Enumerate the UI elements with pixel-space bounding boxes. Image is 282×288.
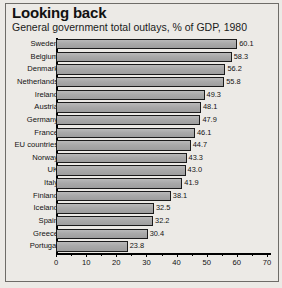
plot-area: Sweden60.1Belgium58.3Denmark56.2Netherla… [0,38,282,288]
bar [56,90,205,100]
bar [56,165,186,175]
x-tick-label: 0 [44,258,68,267]
bar [56,229,148,239]
bar-value-label: 48.1 [203,101,217,114]
bar-row: Finland38.1 [0,190,282,203]
x-tick-minor [252,253,253,256]
x-tick-major [116,253,117,257]
category-label: Greece [33,228,58,241]
category-label: Sweden [31,38,58,51]
bar-row: Denmark56.2 [0,63,282,76]
bar-value-label: 47.9 [202,114,216,127]
category-label: France [34,127,58,140]
chart-title: Looking back [12,4,106,21]
category-label: Netherlands [17,76,58,89]
bar-row: UK43.0 [0,164,282,177]
bar-row: Sweden60.1 [0,38,282,51]
x-tick-label: 40 [165,258,189,267]
bar-row: Portugal23.8 [0,240,282,253]
x-tick-major [177,253,178,257]
bar-value-label: 32.5 [156,202,170,215]
category-label: Belgium [31,51,58,64]
x-tick-label: 60 [225,258,249,267]
bar-row: EU countries44.7 [0,139,282,152]
bar [56,102,201,112]
bar [56,153,187,163]
x-tick-minor [71,253,72,256]
bar [56,128,195,138]
x-tick-label: 30 [134,258,158,267]
x-tick-major [86,253,87,257]
bar-row: Italy41.9 [0,177,282,190]
x-tick-major [146,253,147,257]
bar [56,178,182,188]
bar [56,115,200,125]
bar [56,52,232,62]
x-tick-major [56,253,57,257]
x-tick-label: 10 [74,258,98,267]
bar [56,203,154,213]
bar-value-label: 46.1 [197,127,211,140]
bar-value-label: 32.2 [155,215,169,228]
bar-value-label: 58.3 [234,51,248,64]
bar-value-label: 55.8 [226,76,240,89]
bar-value-label: 38.1 [173,190,187,203]
bar [56,39,237,49]
bar-row: France46.1 [0,127,282,140]
bar [56,241,128,251]
bar-value-label: 49.3 [207,89,221,102]
bar-row: Norway43.3 [0,152,282,165]
chart-subtitle: General government total outlays, % of G… [12,21,247,33]
bar [56,216,153,226]
bar-value-label: 60.1 [239,38,253,51]
bar [56,191,171,201]
category-label: Portugal [30,240,58,253]
bar-value-label: 43.3 [189,152,203,165]
x-tick-minor [101,253,102,256]
bar-row: Austria48.1 [0,101,282,114]
category-label: Denmark [27,63,58,76]
bar [56,77,224,87]
category-label: Norway [32,152,58,165]
x-tick-minor [162,253,163,256]
bar-row: Greece30.4 [0,228,282,241]
bar-value-label: 43.0 [188,164,202,177]
bar-row: Belgium58.3 [0,51,282,64]
bar-value-label: 56.2 [227,63,241,76]
category-label: Iceland [34,202,59,215]
x-tick-major [237,253,238,257]
bar [56,64,225,74]
bar [56,140,191,150]
bar-row: Spain32.2 [0,215,282,228]
x-tick-minor [222,253,223,256]
bar-value-label: 44.7 [193,139,207,152]
bar-row: Ireland49.3 [0,89,282,102]
bar-row: Netherlands55.8 [0,76,282,89]
x-tick-major [267,253,268,257]
x-tick-minor [131,253,132,256]
bar-row: Germany47.9 [0,114,282,127]
x-tick-label: 70 [255,258,279,267]
category-label: Finland [33,190,58,203]
chart-figure: Looking back General government total ou… [0,0,282,288]
x-tick-label: 50 [195,258,219,267]
category-label: Austria [34,101,58,114]
x-tick-minor [192,253,193,256]
x-tick-major [207,253,208,257]
x-axis-line [56,253,271,255]
bar-value-label: 30.4 [150,228,164,241]
category-label: Germany [27,114,58,127]
category-label: Ireland [35,89,58,102]
category-label: EU countries [15,139,58,152]
bar-value-label: 41.9 [184,177,198,190]
bar-value-label: 23.8 [130,240,144,253]
bar-row: Iceland32.5 [0,202,282,215]
x-tick-label: 20 [104,258,128,267]
